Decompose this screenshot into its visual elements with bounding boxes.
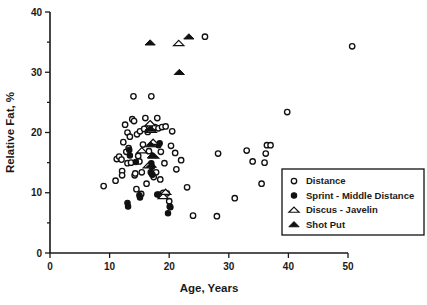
data-point-open-circle <box>133 171 138 176</box>
data-point-open-circle <box>190 213 195 218</box>
legend-label: Sprint - Middle Distance <box>306 190 414 201</box>
x-axis-title: Age, Years <box>180 282 239 294</box>
y-axis-tick-label: 20 <box>31 127 43 138</box>
x-axis-tick-label: 40 <box>283 261 295 272</box>
data-point-open-circle <box>127 134 132 139</box>
data-point-open-circle <box>214 214 219 219</box>
data-point-filled-circle <box>165 211 170 216</box>
data-point-open-circle <box>262 160 267 165</box>
data-point-filled-circle <box>291 193 296 198</box>
data-point-open-circle <box>184 185 189 190</box>
data-point-filled-triangle <box>184 34 194 39</box>
x-axis-tick-label: 0 <box>47 261 53 272</box>
data-point-open-circle <box>113 178 118 183</box>
data-point-open-circle <box>259 181 264 186</box>
data-point-open-triangle <box>145 121 155 126</box>
data-point-filled-triangle <box>174 69 184 74</box>
x-axis-tick-label: 20 <box>164 261 176 272</box>
y-axis-tick-label: 40 <box>31 7 43 18</box>
data-point-open-circle <box>131 94 136 99</box>
data-point-open-circle <box>244 148 249 153</box>
data-point-open-circle <box>149 94 154 99</box>
data-point-filled-circle <box>127 153 132 158</box>
chart-canvas: 01020304001020304050Age, YearsRelative F… <box>0 0 427 305</box>
data-point-open-circle <box>162 161 167 166</box>
data-point-open-circle <box>136 153 141 158</box>
data-point-filled-circle <box>137 195 142 200</box>
data-point-open-circle <box>250 159 255 164</box>
data-point-open-circle <box>121 139 126 144</box>
data-point-filled-circle <box>168 205 173 210</box>
y-axis-tick-label: 0 <box>36 248 42 259</box>
data-point-filled-triangle <box>145 40 155 45</box>
legend-label: Shot Put <box>306 219 346 230</box>
data-point-open-circle <box>268 142 273 147</box>
data-point-open-circle <box>232 195 237 200</box>
data-point-filled-circle <box>125 204 130 209</box>
data-point-open-circle <box>158 177 163 182</box>
data-point-open-circle <box>119 173 124 178</box>
data-point-filled-circle <box>150 172 155 177</box>
data-point-open-circle <box>163 124 168 129</box>
y-axis-tick-label: 30 <box>31 67 43 78</box>
scatter-chart: 01020304001020304050Age, YearsRelative F… <box>0 0 427 305</box>
data-point-open-circle <box>291 178 296 183</box>
data-point-open-circle <box>263 151 268 156</box>
data-point-open-circle <box>169 129 174 134</box>
legend: DistanceSprint - Middle DistanceDiscus -… <box>282 169 424 235</box>
legend-box <box>282 169 424 235</box>
y-axis-title: Relative Fat, % <box>4 92 16 173</box>
legend-label: Discus - Javelin <box>306 204 378 215</box>
data-point-open-circle <box>143 115 148 120</box>
data-point-open-triangle <box>137 148 147 153</box>
data-point-open-circle <box>349 44 354 49</box>
data-point-filled-circle <box>133 159 138 164</box>
data-point-open-circle <box>122 122 127 127</box>
x-axis-tick-label: 10 <box>104 261 116 272</box>
data-point-open-circle <box>168 143 173 148</box>
data-point-open-circle <box>119 157 124 162</box>
data-point-open-circle <box>155 115 160 120</box>
legend-label: Distance <box>306 175 346 186</box>
data-point-open-circle <box>285 109 290 114</box>
data-point-open-circle <box>140 142 145 147</box>
data-point-filled-circle <box>127 147 132 152</box>
data-point-open-circle <box>172 150 177 155</box>
data-point-open-circle <box>134 186 139 191</box>
data-point-open-circle <box>144 181 149 186</box>
data-point-open-circle <box>139 170 144 175</box>
data-point-open-circle <box>178 158 183 163</box>
y-axis-tick-label: 10 <box>31 187 43 198</box>
data-point-open-circle <box>158 149 163 154</box>
data-point-filled-circle <box>155 192 160 197</box>
data-point-open-circle <box>101 183 106 188</box>
data-point-open-circle <box>131 118 136 123</box>
x-axis-tick-label: 50 <box>342 261 354 272</box>
data-point-open-circle <box>174 167 179 172</box>
x-axis-tick-label: 30 <box>223 261 235 272</box>
data-point-open-circle <box>202 34 207 39</box>
data-point-open-circle <box>215 151 220 156</box>
data-point-open-circle <box>167 198 172 203</box>
data-point-open-triangle <box>174 40 184 45</box>
